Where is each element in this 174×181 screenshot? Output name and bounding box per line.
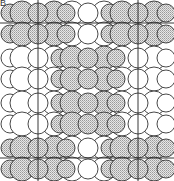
atom-spheres (1, 1, 174, 181)
shaded-sphere (57, 139, 75, 157)
shaded-sphere (107, 94, 125, 112)
plain-sphere (78, 3, 98, 23)
shaded-sphere (157, 4, 174, 22)
plain-sphere (157, 115, 174, 133)
plain-sphere (78, 138, 98, 158)
shaded-sphere (57, 160, 75, 178)
plain-sphere (78, 24, 98, 44)
sphere-packing-diagram (0, 0, 174, 181)
shaded-sphere (78, 93, 98, 113)
shaded-sphere (78, 114, 98, 134)
shaded-sphere (78, 69, 98, 89)
plain-sphere (157, 94, 174, 112)
shaded-sphere (107, 70, 125, 88)
shaded-sphere (107, 115, 125, 133)
shaded-sphere (78, 48, 98, 68)
shaded-sphere (57, 4, 75, 22)
plain-sphere (78, 159, 98, 179)
shaded-sphere (57, 25, 75, 43)
shaded-sphere (157, 139, 174, 157)
shaded-sphere (107, 49, 125, 67)
shaded-sphere (157, 160, 174, 178)
plain-sphere (157, 49, 174, 67)
shaded-sphere (157, 25, 174, 43)
plain-sphere (157, 70, 174, 88)
